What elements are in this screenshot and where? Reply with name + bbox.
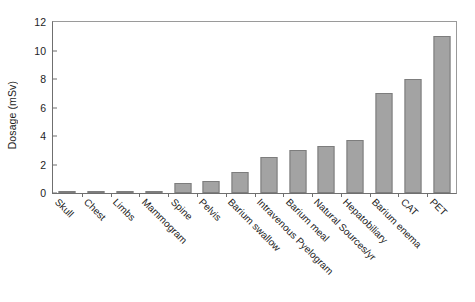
y-tick-label: 6 (40, 102, 46, 113)
x-axis-label: CAT (399, 197, 420, 218)
bar (203, 181, 220, 193)
bar (376, 93, 393, 193)
x-axis-label: Skull (53, 197, 75, 219)
y-tick-label: 10 (34, 45, 46, 56)
bar-slot (312, 22, 341, 193)
bar-slot (111, 22, 140, 193)
x-axis-label: Barium swallow (226, 197, 282, 253)
bar (88, 191, 105, 193)
x-axis-label: Chest (82, 197, 108, 223)
bar-chart-figure: Dosage (mSv) 024681012 SkullChestLimbsMa… (0, 0, 475, 302)
bar (174, 183, 191, 193)
bar-slot (168, 22, 197, 193)
plot-area: 024681012 (52, 21, 457, 194)
bar (59, 191, 76, 193)
bar (318, 146, 335, 193)
bar-slot (255, 22, 284, 193)
bar-slot (398, 22, 427, 193)
bar (232, 172, 249, 193)
bar (404, 79, 421, 193)
bar-slot (197, 22, 226, 193)
bar-slot (370, 22, 399, 193)
bar (347, 140, 364, 193)
y-tick-label: 12 (34, 17, 46, 28)
x-axis-label: PET (428, 197, 449, 218)
bar-slot (82, 22, 111, 193)
y-tick-label: 4 (40, 131, 46, 142)
bar (289, 150, 306, 193)
x-axis-label: Pelvis (197, 197, 223, 223)
bar-slot (226, 22, 255, 193)
bar-slot (427, 22, 456, 193)
y-axis-title: Dosage (mSv) (2, 60, 22, 170)
bar-slot (341, 22, 370, 193)
y-axis-title-label: Dosage (mSv) (6, 81, 18, 149)
bar (260, 157, 277, 193)
x-axis-label: Limbs (111, 197, 137, 223)
bar (433, 36, 450, 193)
x-axis-label: Spine (168, 197, 193, 222)
bar-slot (139, 22, 168, 193)
y-tick-label: 2 (40, 159, 46, 170)
bar (145, 191, 162, 193)
y-tick-label: 0 (40, 188, 46, 199)
x-axis-labels: SkullChestLimbsMammogramSpinePelvisBariu… (52, 197, 457, 301)
y-tick-label: 8 (40, 74, 46, 85)
bars-layer (53, 22, 456, 193)
bar-slot (283, 22, 312, 193)
bar (116, 191, 133, 193)
bar-slot (53, 22, 82, 193)
